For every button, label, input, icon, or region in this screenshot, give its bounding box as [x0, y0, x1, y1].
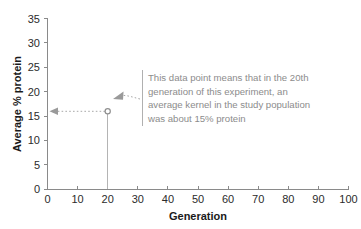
- x-tick-label: 90: [312, 193, 324, 205]
- y-tick-label: 25: [28, 61, 40, 73]
- y-tick-label: 35: [28, 13, 40, 25]
- x-tick-label: 20: [102, 193, 114, 205]
- y-axis-title: Average % protein: [11, 56, 23, 152]
- y-tick-label: 15: [28, 110, 40, 122]
- annotation-callout: This data point means that in the 20th g…: [143, 70, 311, 126]
- x-tick-label: 70: [252, 193, 264, 205]
- x-tick-label: 10: [71, 193, 83, 205]
- y-value-leader: [50, 108, 106, 115]
- leader-arrow-head: [50, 108, 59, 115]
- annotation-line: generation of this experiment, an: [148, 86, 288, 97]
- x-axis-ticks: [48, 186, 349, 190]
- y-axis-tick-labels: 35 30 25 20 15 10 5 0: [28, 13, 40, 196]
- annotation-line: was about 15% protein: [147, 113, 246, 124]
- x-tick-label: 80: [282, 193, 294, 205]
- data-point-marker[interactable]: [105, 109, 110, 114]
- y-tick-label: 5: [34, 159, 40, 171]
- x-axis-title: Generation: [169, 210, 227, 222]
- chart-canvas: 35 30 25 20 15 10 5 0 Average % protein: [0, 0, 361, 229]
- annotation-line: This data point means that in the 20th: [148, 72, 309, 83]
- y-axis-ticks: [44, 19, 48, 190]
- x-tick-label: 0: [44, 193, 50, 205]
- callout-arrow-head: [113, 92, 124, 100]
- x-tick-label: 30: [132, 193, 144, 205]
- y-axis: 35 30 25 20 15 10 5 0 Average % protein: [11, 13, 48, 196]
- x-tick-label: 100: [339, 193, 357, 205]
- x-tick-label: 50: [192, 193, 204, 205]
- y-tick-label: 0: [34, 183, 40, 195]
- y-tick-label: 20: [28, 86, 40, 98]
- annotation-line: average kernel in the study population: [148, 99, 310, 110]
- x-axis-tick-labels: 0 10 20 30 40 50 60 70 80 90 100: [44, 193, 357, 205]
- x-tick-label: 60: [222, 193, 234, 205]
- x-axis: 0 10 20 30 40 50 60 70 80 90 100 Generat…: [44, 186, 357, 223]
- y-tick-label: 10: [28, 134, 40, 146]
- x-tick-label: 40: [162, 193, 174, 205]
- chart-figure: 35 30 25 20 15 10 5 0 Average % protein: [0, 0, 361, 229]
- callout-arrow: [113, 92, 140, 100]
- y-tick-label: 30: [28, 37, 40, 49]
